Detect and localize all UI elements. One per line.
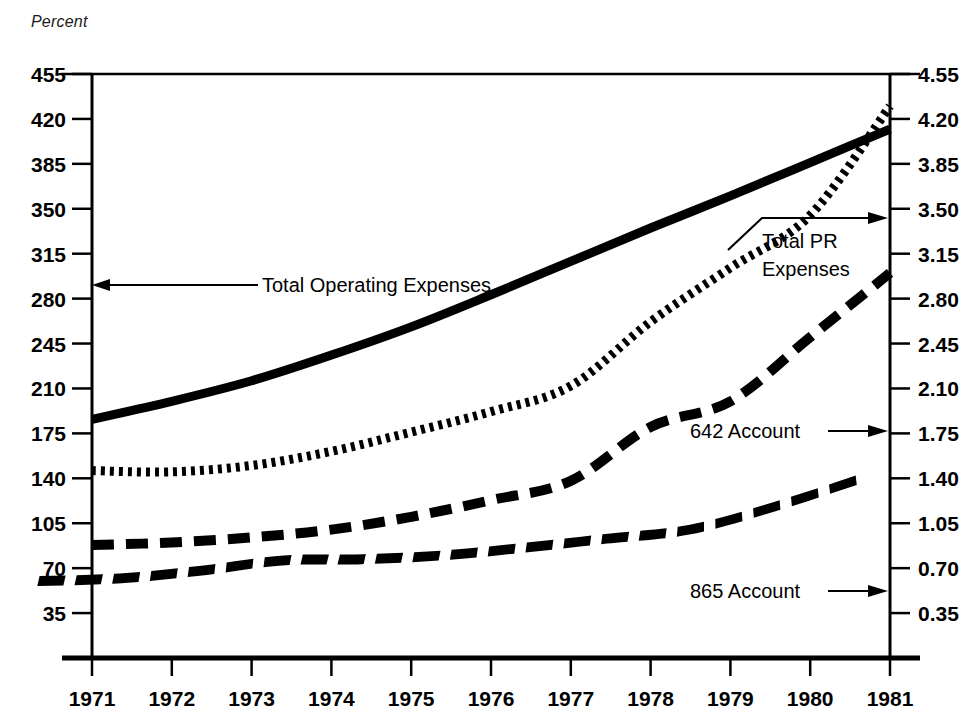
right-axis-tick-label: 2.45 [918,333,959,356]
annotation-total-pr-expenses: Total PR Expenses [728,212,888,280]
annotation-642-account: 642 Account [690,420,888,442]
arrow-left-icon [92,279,110,291]
right-axis-tick-label: 4.20 [918,108,959,131]
arrow-right-icon [868,585,888,597]
x-axis-tick-label: 1972 [148,687,195,710]
right-axis-tick-label: 4.55 [918,63,959,86]
right-axis-tick-label: 0.35 [918,602,959,625]
x-axis-tick-label: 1981 [867,687,914,710]
x-axis-tick-label: 1975 [388,687,435,710]
annotation-label: 642 Account [690,420,801,442]
chart-figure: Percent 45542038535031528024521017514010… [0,0,978,728]
annotation-865-account: 865 Account [690,580,888,602]
left-axis-tick-label: 210 [31,377,66,400]
annotation-label: 865 Account [690,580,801,602]
right-axis-tick-label: 3.85 [918,153,959,176]
left-axis-tick-label: 140 [31,467,66,490]
right-axis-tick-label: 1.40 [918,467,959,490]
chart-plot-area: 4554203853503152802452101751401057035 4.… [0,0,978,728]
annotation-total-operating-expenses: Total Operating Expenses [92,274,491,296]
x-axis-tick-label: 1980 [787,687,834,710]
right-axis-tick-label: 3.50 [918,198,959,221]
x-axis-tick-label: 1973 [228,687,275,710]
annotation-label-line-1: Total PR [762,230,838,252]
data-series-slant-dash [38,478,862,581]
left-axis-tick-label: 385 [31,153,66,176]
right-axis-tick-label: 0.70 [918,557,959,580]
x-axis-tick-label: 1974 [308,687,355,710]
left-axis-tick-label: 105 [31,512,66,535]
left-axis-ticks: 4554203853503152802452101751401057035 [31,63,92,625]
x-axis-ticks: 1971197219731974197519761977197819791980… [69,658,914,710]
right-axis-tick-label: 2.80 [918,288,959,311]
x-axis-tick-label: 1979 [707,687,754,710]
data-series-layer [38,106,890,581]
x-axis-tick-label: 1971 [69,687,116,710]
left-axis-tick-label: 245 [31,333,66,356]
x-axis-tick-label: 1977 [547,687,594,710]
left-axis-tick-label: 35 [43,602,67,625]
left-axis-tick-label: 350 [31,198,66,221]
right-axis-tick-label: 3.15 [918,243,959,266]
left-axis-tick-label: 315 [31,243,66,266]
left-axis-tick-label: 420 [31,108,66,131]
arrow-right-icon [868,212,888,224]
right-axis-tick-label: 1.75 [918,422,959,445]
right-axis-ticks: 4.554.203.853.503.152.802.452.101.751.40… [890,63,959,625]
left-axis-tick-label: 280 [31,288,66,311]
right-axis-tick-label: 2.10 [918,377,959,400]
left-axis-tick-label: 455 [31,63,66,86]
x-axis-tick-label: 1976 [468,687,515,710]
annotation-label: Total Operating Expenses [262,274,491,296]
x-axis-tick-label: 1978 [627,687,674,710]
right-axis-tick-label: 1.05 [918,512,959,535]
left-axis-tick-label: 175 [31,422,66,445]
arrow-right-icon [868,425,888,437]
annotation-label-line-2: Expenses [762,258,850,280]
